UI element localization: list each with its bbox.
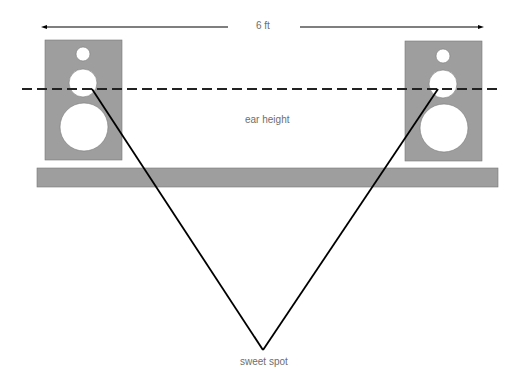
sweet-spot-label: sweet spot	[240, 356, 288, 367]
tweeter-icon	[76, 47, 90, 61]
right-speaker	[405, 41, 482, 161]
shelf	[37, 168, 498, 187]
arrow-right-icon	[478, 25, 484, 29]
listening-triangle	[92, 89, 438, 350]
tweeter-icon	[436, 49, 450, 63]
woofer-icon	[420, 104, 468, 152]
midrange-driver-icon	[429, 70, 457, 98]
midrange-driver-icon	[69, 69, 97, 97]
distance-label: 6 ft	[256, 20, 270, 31]
arrow-left-icon	[41, 25, 47, 29]
left-speaker	[45, 40, 122, 160]
ear-height-label: ear height	[245, 114, 289, 125]
woofer-icon	[60, 103, 108, 151]
speaker-placement-diagram	[0, 0, 518, 388]
